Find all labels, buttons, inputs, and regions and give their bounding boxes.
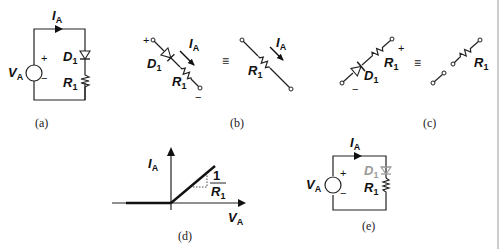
svg-text:R1: R1: [474, 55, 488, 72]
current-arrow-icon: [55, 25, 63, 33]
svg-text:IA: IA: [276, 35, 287, 52]
svg-text:≡: ≡: [222, 54, 229, 68]
current-arrow-icon: [354, 152, 362, 160]
svg-text:IA: IA: [148, 156, 159, 173]
resistor-icon: [369, 45, 385, 60]
svg-text:R1: R1: [364, 180, 378, 197]
diode-icon: [80, 51, 90, 72]
svg-text:(d): (d): [178, 229, 192, 243]
svg-text:D1: D1: [147, 56, 161, 73]
svg-text:IA: IA: [350, 135, 361, 152]
svg-text:1: 1: [213, 168, 220, 183]
voltage-source-icon: [26, 65, 42, 81]
svg-text:+: +: [143, 34, 149, 46]
svg-text:D1: D1: [364, 163, 378, 180]
svg-text:VA: VA: [228, 210, 244, 227]
svg-text:(b): (b): [230, 116, 244, 130]
diagram-canvas: IA VA + − D1 R1 (a) + − D1 R1 IA ≡: [0, 0, 500, 249]
svg-text:+: +: [398, 42, 404, 54]
svg-text:VA: VA: [306, 177, 322, 194]
svg-text:−: −: [41, 72, 47, 84]
resistor-icon: [457, 46, 473, 61]
svg-text:VA: VA: [8, 65, 24, 82]
svg-text:≡: ≡: [414, 56, 421, 70]
svg-text:D1: D1: [364, 68, 378, 85]
panel-a: IA VA + − D1 R1 (a): [8, 8, 90, 130]
svg-text:R1: R1: [211, 184, 225, 201]
voltage-source-icon: [325, 177, 341, 193]
svg-text:(e): (e): [362, 219, 375, 233]
svg-text:+: +: [41, 52, 47, 64]
x-axis-arrow-icon: [238, 199, 246, 207]
svg-text:(c): (c): [423, 116, 436, 130]
svg-text:R1: R1: [248, 63, 262, 80]
svg-text:−: −: [352, 83, 358, 95]
svg-text:R1: R1: [63, 75, 77, 92]
svg-text:IA: IA: [189, 36, 200, 53]
resistor-icon: [256, 54, 272, 70]
panel-d: IA VA 1 R1 (d): [112, 147, 246, 243]
resistor-icon: [383, 178, 389, 195]
svg-text:(a): (a): [35, 116, 48, 130]
panel-e: IA VA + − D1 R1 (e): [306, 135, 391, 233]
svg-text:R1: R1: [172, 74, 186, 91]
svg-text:−: −: [340, 187, 346, 199]
y-axis-arrow-icon: [167, 147, 175, 156]
panel-c: + − D1 R1 ≡ R1 (c): [340, 37, 488, 130]
resistor-icon: [81, 72, 89, 90]
svg-text:D1: D1: [63, 49, 77, 66]
svg-text:−: −: [195, 91, 201, 103]
svg-text:+: +: [340, 167, 346, 179]
current-arrow-icon: [180, 51, 194, 65]
panel-b: + − D1 R1 IA ≡ R1 IA (b): [143, 34, 293, 130]
svg-text:R1: R1: [384, 55, 398, 72]
svg-text:IA: IA: [52, 8, 63, 25]
